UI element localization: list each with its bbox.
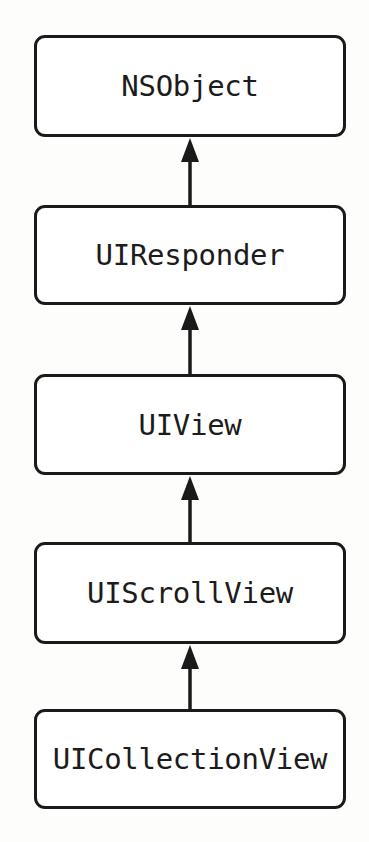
node-nsobject: NSObject xyxy=(34,35,346,137)
node-uicollectionview: UICollectionView xyxy=(34,709,346,809)
node-label: NSObject xyxy=(121,69,258,103)
node-label: UIView xyxy=(139,408,242,442)
node-uiresponder: UIResponder xyxy=(34,205,346,305)
node-label: UICollectionView xyxy=(53,742,328,776)
node-uiscrollview: UIScrollView xyxy=(34,542,346,644)
node-uiview: UIView xyxy=(34,374,346,475)
inheritance-arrow-icon xyxy=(179,644,201,709)
inheritance-arrow-icon xyxy=(179,475,201,542)
inheritance-arrow-icon xyxy=(179,137,201,205)
node-label: UIResponder xyxy=(96,238,285,272)
inheritance-arrow-icon xyxy=(179,305,201,374)
node-label: UIScrollView xyxy=(87,576,293,610)
